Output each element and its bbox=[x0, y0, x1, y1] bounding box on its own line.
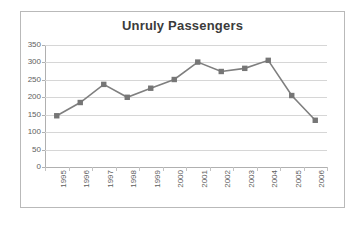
plot-area: 050100150200250300350 bbox=[45, 45, 327, 167]
data-point-marker bbox=[125, 95, 130, 100]
data-point-marker bbox=[148, 86, 153, 91]
data-point-marker bbox=[54, 113, 59, 118]
data-point-marker bbox=[289, 93, 294, 98]
x-tick-label: 1996 bbox=[83, 170, 91, 188]
y-tick-label: 50 bbox=[32, 146, 41, 154]
x-tick-label: 2001 bbox=[201, 170, 209, 188]
x-tick-label: 1998 bbox=[130, 170, 138, 188]
x-tick-label: 2006 bbox=[318, 170, 326, 188]
series-polyline bbox=[57, 60, 316, 120]
data-point-marker bbox=[172, 77, 177, 82]
x-tick-mark bbox=[327, 167, 328, 171]
y-tick-label: 350 bbox=[28, 41, 41, 49]
data-point-marker bbox=[195, 59, 200, 64]
data-point-marker bbox=[78, 100, 83, 105]
x-tick-label: 2002 bbox=[224, 170, 232, 188]
x-tick-label: 2004 bbox=[271, 170, 279, 188]
y-tick-label: 0 bbox=[37, 163, 41, 171]
y-tick-label: 100 bbox=[28, 128, 41, 136]
y-tick-label: 300 bbox=[28, 58, 41, 66]
x-axis-labels: 1995199619971998199920002001200220032004… bbox=[45, 170, 327, 210]
data-point-marker bbox=[219, 69, 224, 74]
y-tick-label: 250 bbox=[28, 76, 41, 84]
data-point-marker bbox=[313, 118, 318, 123]
data-series-line bbox=[45, 45, 327, 167]
x-tick-label: 1997 bbox=[107, 170, 115, 188]
x-tick-label: 1999 bbox=[154, 170, 162, 188]
data-point-marker bbox=[266, 58, 271, 63]
data-point-marker bbox=[242, 66, 247, 71]
x-tick-label: 1995 bbox=[60, 170, 68, 188]
x-tick-label: 2000 bbox=[177, 170, 185, 188]
chart-container: Unruly Passengers 050100150200250300350 … bbox=[20, 11, 345, 208]
chart-title: Unruly Passengers bbox=[21, 18, 344, 33]
data-point-marker bbox=[101, 82, 106, 87]
x-tick-label: 2003 bbox=[248, 170, 256, 188]
y-tick-label: 200 bbox=[28, 93, 41, 101]
y-tick-label: 150 bbox=[28, 111, 41, 119]
x-tick-label: 2005 bbox=[295, 170, 303, 188]
plot-inner: 050100150200250300350 bbox=[45, 45, 327, 167]
